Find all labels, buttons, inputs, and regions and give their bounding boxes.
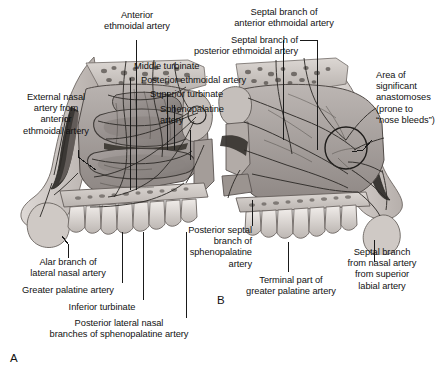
- label-septal-branch-anterior-ethmoidal: Septal branch of anterior ethmoidal arte…: [222, 7, 346, 29]
- label-septal-branch-superior-labial: Septal branch from nasal artery from sup…: [330, 247, 434, 292]
- label-posterior-septal-branch: Posterior septal branch of sphenopalatin…: [180, 225, 252, 270]
- panel-letter-a: A: [10, 352, 18, 364]
- label-sphenopalatine-artery: Sphenopalatine artery: [160, 104, 256, 126]
- label-external-nasal-artery: External nasal artery from anterior ethm…: [6, 92, 106, 137]
- label-alar-branch: Alar branch of lateral nasal artery: [10, 257, 126, 279]
- panel-letter-b: B: [217, 294, 225, 306]
- label-posterior-lateral-nasal-branches: Posterior lateral nasal branches of sphe…: [24, 318, 214, 340]
- label-anterior-ethmoidal-artery: Anterior ethmoidal artery: [74, 10, 200, 32]
- label-superior-turbinate: Superior turbinate: [150, 89, 270, 100]
- label-septal-branch-posterior-ethmoidal: Septal branch of posterior ethmoidal art…: [132, 35, 298, 57]
- label-inferior-turbinate: Inferior turbinate: [52, 302, 152, 313]
- label-middle-turbinate: Middle turbinate: [134, 61, 244, 72]
- label-posterior-ethmoidal-artery: Posterior ethmoidal artery: [141, 75, 281, 86]
- label-area-of-anastomoses: Area of significant anastomoses (prone t…: [376, 70, 440, 126]
- anatomy-figure: Anterior ethmoidal artery Septal branch …: [0, 0, 440, 373]
- label-greater-palatine-artery: Greater palatine artery: [8, 285, 128, 296]
